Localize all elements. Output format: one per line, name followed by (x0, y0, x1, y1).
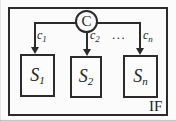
edge-label-cn-sub: n (148, 34, 153, 44)
subsystem-label-1: S1 (30, 66, 45, 86)
subsystem-label-n: Sn (133, 67, 148, 87)
subsystem-box-2: S2 (70, 56, 102, 98)
subsystem-label-2: S2 (79, 67, 94, 87)
diagram-canvas: C c1 c2 ... cn S1 S2 Sn IF (0, 0, 176, 121)
edge-label-c1-sub: 1 (42, 34, 47, 44)
arrowhead-1-icon (31, 47, 39, 54)
frame-label: IF (149, 99, 162, 114)
subsystem-label-2-sub: 2 (88, 75, 94, 87)
subsystem-label-1-sub: 1 (39, 74, 45, 86)
subsystem-label-n-base: S (133, 66, 142, 86)
ellipsis-label: ... (112, 28, 126, 41)
controller-node: C (75, 10, 98, 33)
subsystem-label-1-base: S (30, 65, 39, 85)
edge-label-cn: cn (143, 29, 153, 44)
arrowhead-n-icon (136, 48, 144, 55)
drop-line-1 (34, 22, 36, 48)
edge-label-c2-sub: 2 (95, 34, 100, 44)
edge-label-c1: c1 (37, 29, 47, 44)
controller-label: C (81, 14, 91, 29)
subsystem-label-2-base: S (79, 66, 88, 86)
arrowhead-2-icon (83, 49, 91, 56)
drop-line-n (139, 22, 141, 49)
drop-line-2 (86, 32, 88, 50)
subsystem-box-n: Sn (123, 55, 158, 98)
subsystem-label-n-sub: n (142, 75, 148, 87)
subsystem-box-1: S1 (20, 54, 55, 97)
